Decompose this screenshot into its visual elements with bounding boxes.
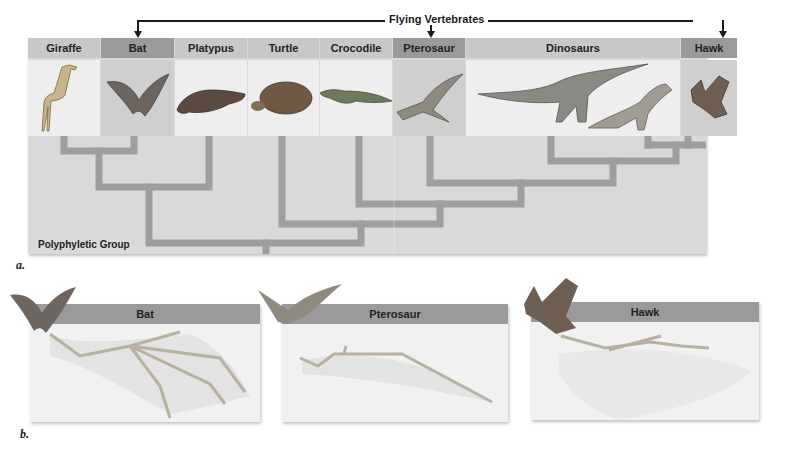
bat-icon xyxy=(101,60,174,136)
taxon-hawk: Hawk xyxy=(681,38,737,136)
bracket-label: Flying Vertebrates xyxy=(385,13,488,25)
pterosaur-flying-icon xyxy=(258,284,344,332)
taxon-label: Platypus xyxy=(175,38,247,58)
polyphyletic-group-label: Polyphyletic Group xyxy=(38,239,130,250)
crocodile-icon xyxy=(320,60,392,136)
caption-a: a. xyxy=(16,258,25,273)
turtle-icon xyxy=(248,60,319,136)
hawk-flying-icon xyxy=(520,276,586,338)
taxon-platypus: Platypus xyxy=(175,38,247,136)
taxon-label: Turtle xyxy=(248,38,319,58)
platypus-icon xyxy=(175,60,247,136)
hawk-wing-skeleton-icon xyxy=(531,324,759,420)
arrow-to-hawk-icon xyxy=(719,31,727,38)
taxon-giraffe: Giraffe xyxy=(28,38,100,136)
taxon-label: Dinosaurs xyxy=(466,38,680,58)
arrow-to-bat-icon xyxy=(134,31,142,38)
hawk-icon xyxy=(681,60,737,136)
pterosaur-icon xyxy=(393,60,465,136)
taxon-pterosaur: Pterosaur xyxy=(393,38,465,136)
taxon-turtle: Turtle xyxy=(248,38,319,136)
taxon-label: Bat xyxy=(101,38,174,58)
giraffe-icon xyxy=(28,60,100,136)
phylogeny-panel: Giraffe Bat Platypus Turtle Crocodile Pt… xyxy=(28,38,706,254)
taxon-label: Pterosaur xyxy=(393,38,465,58)
taxon-bat: Bat xyxy=(101,38,174,136)
pterosaur-wing-skeleton-icon xyxy=(282,326,508,422)
taxon-label: Hawk xyxy=(681,38,737,58)
dinosaurs-icon xyxy=(466,60,680,136)
taxon-crocodile: Crocodile xyxy=(320,38,392,136)
bat-flying-icon xyxy=(8,285,78,341)
taxon-label: Crocodile xyxy=(320,38,392,58)
taxon-dinosaurs: Dinosaurs xyxy=(466,38,680,136)
taxon-label: Giraffe xyxy=(28,38,100,58)
arrow-to-pterosaur-icon xyxy=(427,31,435,38)
caption-b: b. xyxy=(20,427,29,442)
